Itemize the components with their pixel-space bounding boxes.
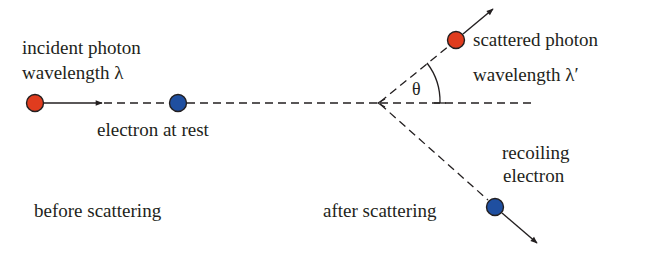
recoil-electron-arrow [502,213,537,243]
incident-photon-label: incident photon [22,37,141,59]
recoiling-label: recoiling [502,142,570,164]
incident-photon-particle [27,95,44,112]
scattered-wavelength-label: wavelength λ′ [473,64,579,86]
before-scattering-label: before scattering [34,200,161,222]
recoil-dashed-path [380,104,488,200]
recoiling-electron-particle [487,199,504,216]
scattered-photon-particle [448,32,465,49]
incident-wavelength-label: wavelength λ [22,62,124,84]
electron-at-rest-particle [170,95,187,112]
after-scattering-label: after scattering [323,200,436,222]
theta-angle-arc [427,63,440,103]
scattered-photon-label: scattered photon [473,29,598,51]
compton-scattering-diagram: incident photon wavelength λ electron at… [0,0,648,257]
theta-label: θ [412,79,421,100]
electron-at-rest-label: electron at rest [97,119,209,141]
recoiling-electron-label: electron [503,165,564,187]
